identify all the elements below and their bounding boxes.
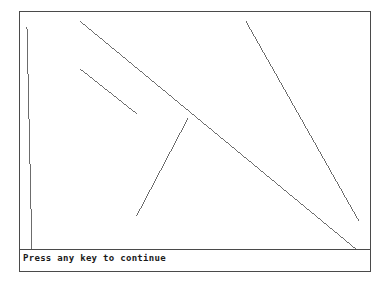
- status-divider: [20, 249, 370, 250]
- line-segment: [80, 21, 356, 249]
- line-drawing-svg: [20, 12, 370, 271]
- line-segment: [80, 69, 138, 115]
- status-bar: Press any key to continue: [20, 249, 370, 271]
- app-window: Press any key to continue: [0, 0, 389, 282]
- line-segment: [136, 118, 188, 216]
- line-segment: [246, 21, 359, 221]
- line-segment: [27, 27, 32, 250]
- graphics-canvas-frame: Press any key to continue: [19, 11, 371, 272]
- line-segment-group: [27, 21, 359, 250]
- status-prompt-text: Press any key to continue: [23, 253, 166, 264]
